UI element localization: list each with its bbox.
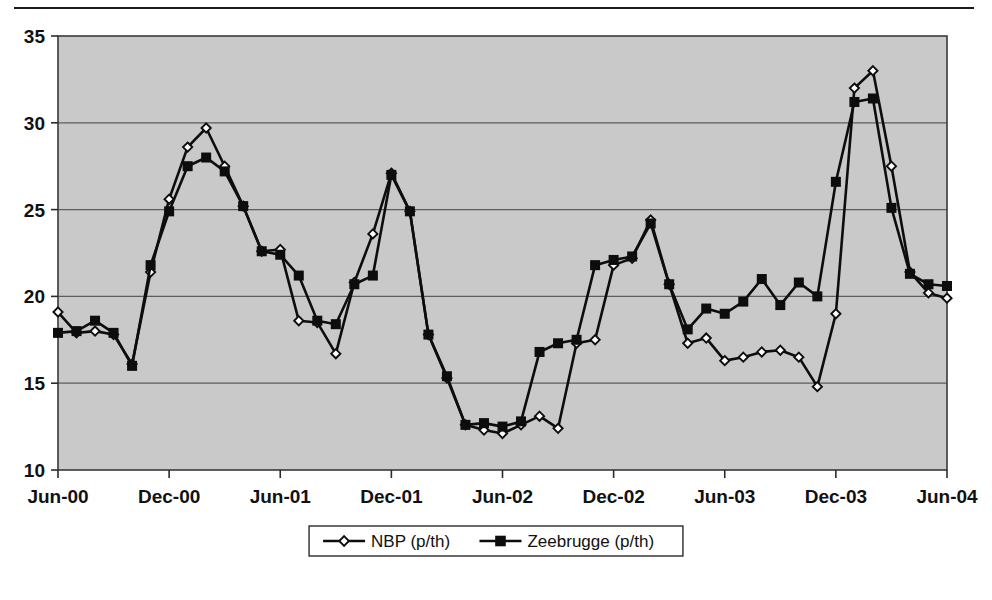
- legend-marker-square-icon: [496, 537, 505, 546]
- data-point-marker: [572, 336, 580, 344]
- x-axis-tick-label: Jun-03: [694, 486, 755, 507]
- data-point-marker: [887, 204, 895, 212]
- data-point-marker: [646, 219, 654, 227]
- data-point-marker: [54, 329, 62, 337]
- data-point-marker: [313, 317, 321, 325]
- data-point-marker: [684, 325, 692, 333]
- plot-background: [58, 36, 947, 470]
- data-point-marker: [128, 362, 136, 370]
- data-point-marker: [258, 247, 266, 255]
- x-axis-tick-label: Jun-01: [250, 486, 312, 507]
- x-axis-labels: Jun-00Dec-00Jun-01Dec-01Jun-02Dec-02Jun-…: [27, 486, 978, 507]
- data-point-marker: [406, 207, 414, 215]
- y-axis-ticks: [51, 36, 58, 470]
- y-axis-tick-label: 15: [24, 373, 46, 394]
- data-point-marker: [517, 417, 525, 425]
- data-point-marker: [461, 421, 469, 429]
- x-axis-tick-label: Jun-02: [472, 486, 533, 507]
- data-point-marker: [498, 422, 506, 430]
- data-point-marker: [350, 280, 358, 288]
- data-point-marker: [832, 178, 840, 186]
- data-point-marker: [702, 304, 710, 312]
- data-point-marker: [443, 372, 451, 380]
- data-point-marker: [109, 329, 117, 337]
- chart-legend: NBP (p/th)Zeebrugge (p/th): [309, 526, 683, 556]
- data-point-marker: [276, 251, 284, 259]
- data-point-marker: [554, 339, 562, 347]
- x-axis-tick-label: Dec-02: [582, 486, 644, 507]
- x-axis-tick-label: Dec-00: [138, 486, 200, 507]
- data-point-marker: [628, 252, 636, 260]
- data-point-marker: [91, 317, 99, 325]
- data-point-marker: [239, 202, 247, 210]
- y-axis-tick-label: 35: [24, 26, 46, 47]
- data-point-marker: [220, 167, 228, 175]
- data-point-marker: [332, 320, 340, 328]
- data-point-marker: [721, 310, 729, 318]
- y-axis-tick-label: 20: [24, 286, 45, 307]
- data-point-marker: [869, 94, 877, 102]
- y-axis-labels: 101520253035: [24, 26, 46, 481]
- data-point-marker: [424, 330, 432, 338]
- x-axis-tick-label: Jun-04: [916, 486, 978, 507]
- x-axis-tick-label: Jun-00: [27, 486, 88, 507]
- data-point-marker: [943, 282, 951, 290]
- data-point-marker: [776, 301, 784, 309]
- y-axis-tick-label: 25: [24, 200, 46, 221]
- data-point-marker: [813, 292, 821, 300]
- data-point-marker: [295, 271, 303, 279]
- legend-entry-label: NBP (p/th): [371, 532, 450, 551]
- data-point-marker: [535, 348, 543, 356]
- x-axis-tick-label: Dec-03: [805, 486, 867, 507]
- data-point-marker: [202, 153, 210, 161]
- data-point-marker: [72, 327, 80, 335]
- legend-entry-label: Zeebrugge (p/th): [527, 532, 654, 551]
- data-point-marker: [480, 419, 488, 427]
- data-point-marker: [146, 261, 154, 269]
- y-axis-tick-label: 30: [24, 113, 45, 134]
- data-point-marker: [387, 171, 395, 179]
- data-point-marker: [906, 270, 914, 278]
- data-point-marker: [795, 278, 803, 286]
- data-point-marker: [591, 261, 599, 269]
- x-axis-tick-label: Dec-01: [360, 486, 423, 507]
- data-point-marker: [850, 98, 858, 106]
- top-divider-rule: [14, 7, 974, 9]
- chart-container: 101520253035 Jun-00Dec-00Jun-01Dec-01Jun…: [0, 14, 992, 574]
- line-chart: 101520253035 Jun-00Dec-00Jun-01Dec-01Jun…: [0, 14, 992, 574]
- data-point-marker: [924, 280, 932, 288]
- x-axis-ticks: [58, 470, 947, 478]
- data-point-marker: [165, 207, 173, 215]
- data-point-marker: [739, 297, 747, 305]
- chart-page: 101520253035 Jun-00Dec-00Jun-01Dec-01Jun…: [0, 0, 992, 600]
- data-point-marker: [665, 280, 673, 288]
- data-point-marker: [369, 271, 377, 279]
- data-point-marker: [609, 256, 617, 264]
- data-point-marker: [758, 275, 766, 283]
- data-point-marker: [183, 162, 191, 170]
- y-axis-tick-label: 10: [24, 460, 45, 481]
